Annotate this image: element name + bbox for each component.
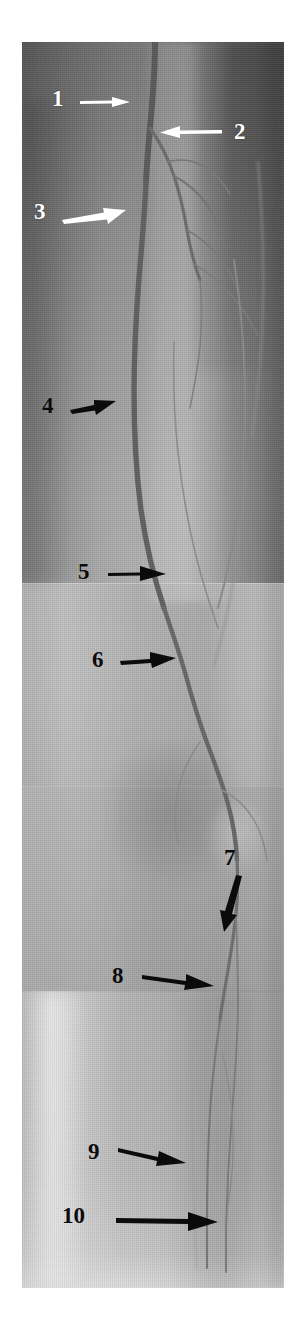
annotation-label-1: 1 (52, 87, 64, 110)
annotation-arrow-3 (60, 200, 132, 228)
annotation-arrow-10 (114, 1206, 222, 1234)
annotation-arrow-1 (78, 88, 136, 114)
annotation-label-7: 7 (224, 846, 236, 869)
annotation-label-4: 4 (42, 394, 54, 417)
annotation-label-6: 6 (92, 648, 104, 671)
annotation-label-9: 9 (88, 1140, 100, 1163)
annotation-arrow-5 (106, 560, 170, 586)
annotation-label-2: 2 (234, 120, 246, 143)
vessel-perforator-branch-2 (194, 264, 258, 336)
annotation-arrow-8 (140, 964, 220, 992)
vessel-superficial-femoral-artery (134, 182, 164, 608)
annotation-arrow-7 (216, 874, 256, 936)
vessel-common-femoral-artery (146, 42, 155, 182)
annotation-arrow-2 (156, 118, 226, 144)
annotation-label-10: 10 (62, 1204, 85, 1227)
vessel-perforator-branch-3 (190, 280, 202, 408)
annotation-arrow-4 (68, 394, 120, 420)
vessel-medial-collateral-thigh (174, 342, 218, 628)
angiogram-image: 1 2 3 4 5 (22, 42, 284, 1288)
annotation-label-8: 8 (112, 964, 124, 987)
angiogram-figure: 1 2 3 4 5 (0, 0, 305, 1320)
annotation-label-5: 5 (78, 560, 90, 583)
vessel-geniculate-collateral-medial (175, 742, 200, 842)
annotation-label-3: 3 (34, 200, 46, 223)
vessel-profunda-femoris-artery (150, 128, 200, 280)
annotation-arrow-9 (116, 1140, 190, 1168)
vessel-lateral-collateral-thigh (218, 260, 245, 608)
annotation-arrow-6 (118, 646, 182, 672)
vessel-ghost-upper-lateral (252, 162, 263, 436)
vessel-profunda-branch-lateral (174, 176, 224, 246)
